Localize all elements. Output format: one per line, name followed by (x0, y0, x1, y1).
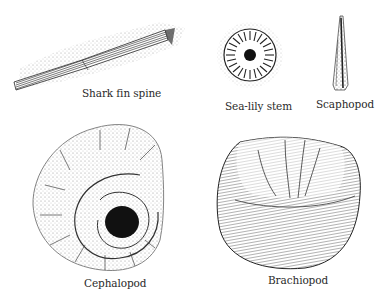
sea-lily-stem-drawing (217, 22, 283, 88)
label-brachiopod: Brachiopod (268, 274, 328, 286)
brachiopod-drawing (217, 137, 360, 269)
cephalopod-drawing (33, 125, 164, 271)
label-cephalopod: Cephalopod (84, 277, 146, 289)
scaphopod-drawing (333, 16, 348, 90)
shark-fin-spine-drawing (14, 22, 185, 90)
label-sea-lily-stem: Sea-lily stem (225, 100, 292, 112)
label-shark-fin-spine: Shark fin spine (82, 87, 161, 99)
fossil-drawings (0, 0, 387, 305)
label-scaphopod: Scaphopod (316, 98, 374, 110)
fossil-illustration: Shark fin spine Sea-lily stem Scaphopod … (0, 0, 387, 305)
